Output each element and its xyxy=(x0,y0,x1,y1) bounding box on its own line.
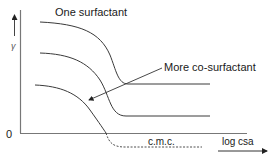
one-surfactant-label: One surfactant xyxy=(55,7,127,18)
origin-label: 0 xyxy=(6,129,12,140)
y-axis-label: γ xyxy=(11,42,16,51)
curve-one-surfactant xyxy=(40,22,210,84)
curve-more-co-surfactant xyxy=(35,85,106,133)
cmc-label: c.m.c. xyxy=(148,137,175,147)
more-co-surfactant-label: More co-surfactant xyxy=(164,62,256,73)
x-axis-label: log csa xyxy=(222,137,254,147)
